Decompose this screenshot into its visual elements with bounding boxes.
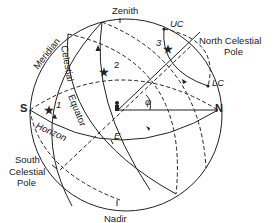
star-2-icon: ★: [99, 66, 109, 78]
north-celestial-pole-label-1: North Celestial: [199, 35, 261, 46]
uc-label: UC: [170, 18, 184, 29]
celestial-label: Celestial: [59, 44, 76, 82]
south-celestial-pole-label-2: Celestial: [9, 166, 45, 177]
celestial-sphere-diagram: ★ ★ ★ Zenith Nadir S N E Meridian Celest…: [0, 0, 278, 223]
star-2-label: 2: [114, 59, 119, 70]
arrow-icon: [146, 126, 150, 131]
south-label: S: [20, 102, 27, 114]
star-3-icon: ★: [163, 43, 173, 55]
star-1-icon: ★: [44, 104, 54, 116]
zenith-label: Zenith: [112, 5, 138, 16]
south-celestial-pole-label-1: South: [15, 154, 40, 165]
lc-point: [206, 84, 209, 87]
north-celestial-pole-label-2: Pole: [224, 46, 243, 57]
meridian-label: Meridian: [31, 36, 62, 71]
latitude-phi-label: φ: [145, 96, 151, 107]
horizon-label: Horizon: [34, 120, 68, 143]
star-3-label: 3: [156, 37, 162, 48]
south-celestial-pole-label-3: Pole: [17, 177, 36, 188]
observer-icon: [115, 101, 119, 111]
east-tick: [111, 140, 113, 144]
nadir-label: Nadir: [104, 213, 127, 223]
uc-point: [162, 27, 165, 30]
arrow-icon: [182, 79, 187, 84]
equator-label: Equator: [66, 93, 89, 128]
star-1-label: 1: [56, 99, 61, 110]
celestial-sphere-outline: [30, 19, 222, 211]
lc-label: LC: [212, 77, 224, 88]
east-label: E: [114, 130, 121, 141]
north-label: N: [215, 102, 223, 114]
